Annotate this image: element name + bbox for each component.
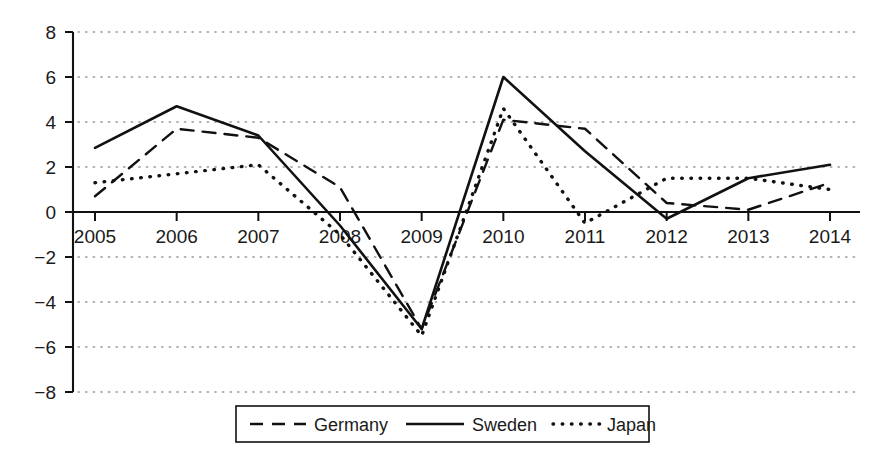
legend-label-japan: Japan bbox=[607, 415, 656, 435]
x-tick-labels: 2005200620072008200920102011201220132014 bbox=[74, 226, 852, 247]
y-tick-label: 8 bbox=[45, 22, 56, 43]
y-tick-label: −2 bbox=[34, 247, 56, 268]
line-chart: 86420−2−4−6−8 20052006200720082009201020… bbox=[0, 0, 887, 456]
y-tick-label: 0 bbox=[45, 202, 56, 223]
legend-label-sweden: Sweden bbox=[472, 415, 537, 435]
legend-label-germany: Germany bbox=[314, 415, 388, 435]
x-tick-label: 2009 bbox=[401, 226, 443, 247]
x-tick-label: 2010 bbox=[482, 226, 524, 247]
y-tick-marks bbox=[65, 32, 73, 392]
x-tick-label: 2013 bbox=[727, 226, 769, 247]
x-tick-label: 2012 bbox=[646, 226, 688, 247]
series-line-germany bbox=[95, 120, 830, 329]
x-tick-label: 2006 bbox=[156, 226, 198, 247]
x-tick-label: 2011 bbox=[565, 226, 606, 247]
x-tick-label: 2014 bbox=[809, 226, 852, 247]
chart-container: 86420−2−4−6−8 20052006200720082009201020… bbox=[0, 0, 887, 456]
y-tick-label: 6 bbox=[45, 67, 56, 88]
legend: Germany Sweden Japan bbox=[236, 406, 656, 442]
y-axis: 86420−2−4−6−8 bbox=[34, 22, 73, 403]
y-tick-label: −8 bbox=[34, 382, 56, 403]
y-tick-label: 4 bbox=[45, 112, 56, 133]
y-tick-labels: 86420−2−4−6−8 bbox=[34, 22, 56, 403]
series-line-sweden bbox=[95, 77, 830, 329]
x-tick-label: 2005 bbox=[74, 226, 116, 247]
y-tick-label: 2 bbox=[45, 157, 56, 178]
plot-series bbox=[95, 77, 830, 336]
y-tick-label: −4 bbox=[34, 292, 56, 313]
y-tick-label: −6 bbox=[34, 337, 56, 358]
x-tick-label: 2007 bbox=[237, 226, 279, 247]
x-axis: 2005200620072008200920102011201220132014 bbox=[73, 212, 860, 247]
